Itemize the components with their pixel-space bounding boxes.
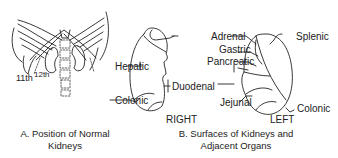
label-adrenal: Adrenal: [211, 31, 245, 42]
caption-a: A. Position of Normal Kidneys: [10, 128, 120, 152]
caption-b-line2: Adjacent Organs: [168, 140, 304, 152]
left-kidney-title: LEFT: [270, 114, 294, 125]
rib-cage-right: [64, 12, 108, 70]
rib-label-11th: 11th: [16, 73, 33, 84]
rib-label-12th: 12th: [34, 69, 50, 80]
label-colonic-right: Colonic: [115, 95, 148, 106]
caption-b-line1: B. Surfaces of Kidneys and: [168, 128, 304, 140]
kidney-left-a: [72, 45, 85, 70]
label-hepatic: Hepatic: [115, 61, 149, 72]
right-kidney-title: RIGHT: [166, 114, 197, 125]
label-pancreatic: Pancreatic: [207, 56, 254, 67]
caption-a-line2: Kidneys: [10, 140, 120, 152]
label-splenic: Splenic: [296, 31, 329, 42]
spine: [34, 40, 94, 96]
label-duodenal: Duodenal: [172, 81, 215, 92]
caption-a-line1: A. Position of Normal: [10, 128, 120, 140]
label-colonic-left: Colonic: [297, 103, 330, 114]
caption-b: B. Surfaces of Kidneys and Adjacent Orga…: [168, 128, 304, 152]
label-jejunal: Jejunal: [220, 97, 252, 108]
label-gastric: Gastric: [219, 44, 251, 55]
